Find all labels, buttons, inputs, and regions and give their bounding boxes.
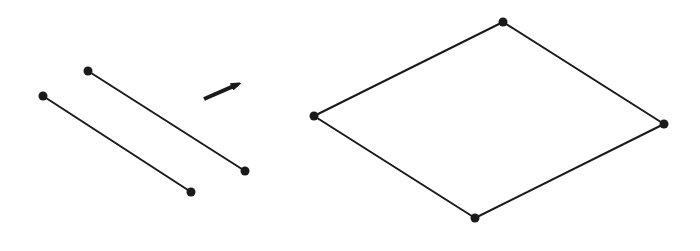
- vertex: [471, 214, 480, 223]
- line: [88, 71, 245, 171]
- arrow-shaft: [204, 85, 237, 99]
- segment-left: [39, 92, 196, 197]
- transform-arrow-icon: [204, 85, 237, 99]
- vertex: [499, 18, 508, 27]
- segment-right: [84, 67, 250, 176]
- diagram-canvas: [0, 0, 700, 251]
- endpoint: [241, 167, 250, 176]
- vertex: [660, 120, 669, 129]
- endpoint: [187, 188, 196, 197]
- endpoint: [39, 92, 48, 101]
- parallelogram-outline: [314, 22, 664, 218]
- parallel-segments: [39, 67, 250, 197]
- line: [43, 96, 191, 192]
- vertex: [310, 112, 319, 121]
- endpoint: [84, 67, 93, 76]
- parallelogram: [310, 18, 669, 223]
